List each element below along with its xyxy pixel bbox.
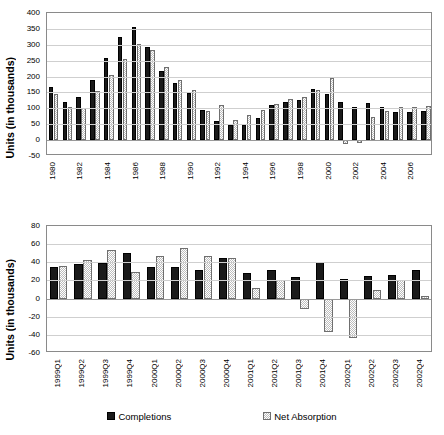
bar-completions-1999Q4 xyxy=(123,253,131,298)
bar-completions-1991 xyxy=(200,110,205,140)
y-tick-label: 50 xyxy=(31,119,40,128)
bar-completions-1983 xyxy=(90,80,95,140)
annual-plot-area xyxy=(46,12,432,155)
bar-net-absorption-2000Q4 xyxy=(228,258,236,299)
bar-net-absorption-2001Q1 xyxy=(252,288,260,299)
x-tick-label: 2002Q3 xyxy=(391,359,400,387)
x-tick-label: 2001Q2 xyxy=(270,359,279,387)
bar-completions-2001Q2 xyxy=(267,270,275,298)
legend-item-net-absorption: Net Absorption xyxy=(263,411,336,422)
bar-net-absorption-1997 xyxy=(288,99,293,140)
x-tick-label: 1999Q2 xyxy=(77,359,86,387)
x-tick-label: 2000Q2 xyxy=(174,359,183,387)
y-tick-label: 20 xyxy=(31,275,40,284)
bar-net-absorption-1998 xyxy=(302,97,307,140)
bar-completions-2005 xyxy=(393,112,398,140)
gridline xyxy=(47,335,431,336)
x-tick-label: 1988 xyxy=(158,162,167,180)
gridline xyxy=(47,124,431,125)
bar-completions-2000Q1 xyxy=(147,267,155,299)
bar-completions-1988 xyxy=(159,71,164,140)
chart-legend: CompletionsNet Absorption xyxy=(0,405,444,427)
x-tick-label: 2002Q1 xyxy=(343,359,352,387)
quarterly-chart-panel: Units (in thousands) 806040200-20-40-60 … xyxy=(0,215,444,405)
y-tick-label: -50 xyxy=(28,151,40,160)
bar-completions-2000Q4 xyxy=(219,258,227,299)
bar-completions-1999Q1 xyxy=(50,267,58,299)
bar-net-absorption-1993 xyxy=(233,120,238,140)
gridline xyxy=(47,317,431,318)
y-tick-label: 100 xyxy=(27,103,40,112)
bar-completions-1998 xyxy=(297,100,302,140)
x-tick-label: 1980 xyxy=(48,162,57,180)
x-tick-label: 2000 xyxy=(324,162,333,180)
bar-net-absorption-2002Q3 xyxy=(397,280,405,298)
two-panel-bar-chart-figure: Units (in thousands) 4003503002502001501… xyxy=(0,0,444,435)
bar-completions-1980 xyxy=(49,87,54,140)
y-tick-label: 250 xyxy=(27,55,40,64)
x-tick-label: 1999Q1 xyxy=(53,359,62,387)
y-tick-label: 200 xyxy=(27,71,40,80)
legend-label: Net Absorption xyxy=(274,411,336,422)
bar-completions-2002Q3 xyxy=(388,275,396,299)
bar-completions-2000 xyxy=(325,94,330,140)
x-tick-label: 2000Q1 xyxy=(150,359,159,387)
x-tick-label: 1998 xyxy=(296,162,305,180)
x-tick-label: 1996 xyxy=(268,162,277,180)
bar-completions-1984 xyxy=(104,58,109,140)
y-tick-label: 80 xyxy=(31,221,40,230)
x-tick-label: 2001Q4 xyxy=(318,359,327,387)
bar-completions-2001Q1 xyxy=(243,273,251,298)
bar-net-absorption-1996 xyxy=(274,104,279,140)
bar-net-absorption-1999Q1 xyxy=(59,266,67,299)
bar-net-absorption-2000Q2 xyxy=(180,248,188,299)
bar-net-absorption-2001Q2 xyxy=(276,280,284,298)
y-tick-label: 0 xyxy=(36,293,40,302)
annual-x-axis-ticks: 1980198219841986198819901992199419961998… xyxy=(46,158,432,208)
bar-net-absorption-1989 xyxy=(178,80,183,140)
quarterly-x-axis-ticks: 1999Q11999Q21999Q31999Q42000Q12000Q22000… xyxy=(46,355,432,407)
x-tick-label: 2002Q2 xyxy=(367,359,376,387)
quarterly-plot-area xyxy=(46,225,432,352)
bar-net-absorption-2001Q3 xyxy=(300,299,308,310)
legend-label: Completions xyxy=(118,411,171,422)
bar-net-absorption-1990 xyxy=(192,90,197,140)
gridline xyxy=(47,244,431,245)
bar-completions-2000Q3 xyxy=(195,270,203,298)
bar-net-absorption-2001Q4 xyxy=(324,299,332,333)
bar-completions-2006 xyxy=(407,112,412,140)
y-tick-label: 40 xyxy=(31,257,40,266)
bar-net-absorption-1980 xyxy=(54,94,59,140)
bar-completions-1996 xyxy=(269,105,274,140)
legend-swatch-icon xyxy=(263,412,271,420)
y-tick-label: 60 xyxy=(31,239,40,248)
legend-item-completions: Completions xyxy=(107,411,171,422)
gridline xyxy=(47,29,431,30)
y-tick-label: 0 xyxy=(36,135,40,144)
gridline xyxy=(47,45,431,46)
x-tick-label: 2002Q4 xyxy=(415,359,424,387)
x-tick-label: 1990 xyxy=(186,162,195,180)
bar-completions-1982 xyxy=(76,97,81,141)
bar-net-absorption-1999Q3 xyxy=(107,250,115,299)
x-tick-label: 2000Q4 xyxy=(222,359,231,387)
bar-completions-1999Q2 xyxy=(74,264,82,298)
bar-net-absorption-2004 xyxy=(385,111,390,140)
zero-line xyxy=(47,140,431,141)
bar-net-absorption-1999 xyxy=(316,90,321,140)
bar-completions-1990 xyxy=(187,93,192,140)
x-tick-label: 2000Q3 xyxy=(198,359,207,387)
bar-completions-1994 xyxy=(242,125,247,141)
bar-completions-2000Q2 xyxy=(171,267,179,299)
gridline xyxy=(47,92,431,93)
y-tick-label: -40 xyxy=(28,329,40,338)
bar-net-absorption-1995 xyxy=(261,110,266,140)
x-tick-label: 1999Q4 xyxy=(125,359,134,387)
x-tick-label: 1992 xyxy=(213,162,222,180)
bar-completions-1999 xyxy=(311,89,316,140)
bar-net-absorption-2002Q2 xyxy=(373,290,381,298)
x-tick-label: 1984 xyxy=(103,162,112,180)
bar-net-absorption-1994 xyxy=(247,115,252,140)
x-tick-label: 2006 xyxy=(406,162,415,180)
gridline xyxy=(47,77,431,78)
